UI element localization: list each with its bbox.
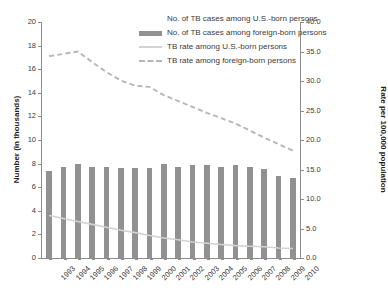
y-axis-left-tick-label: 12	[0, 112, 36, 120]
legend-marker-none	[137, 12, 163, 26]
x-axis-tick	[135, 259, 138, 260]
y-axis-left-tick-label: 18	[0, 42, 36, 50]
y-axis-left-tick	[38, 258, 41, 259]
legend-bar-swatch-icon	[139, 31, 162, 36]
x-axis-tick	[150, 259, 153, 260]
x-axis-tick	[64, 259, 67, 260]
x-axis-tick	[107, 259, 110, 260]
line-tb-rate-us-born	[49, 216, 293, 249]
y-axis-right-tick	[301, 199, 304, 200]
y-axis-left-tick	[38, 69, 41, 70]
x-axis-tick	[78, 259, 81, 260]
x-axis-tick-label: 2005	[231, 264, 249, 282]
x-axis-tick	[279, 259, 282, 260]
y-axis-right-tick-label: 20.0	[306, 136, 346, 144]
y-axis-right-tick	[301, 140, 304, 141]
y-axis-right-tick-label: 30.0	[306, 77, 346, 85]
y-axis-left-tick-label: 20	[0, 18, 36, 26]
y-axis-left-tick	[38, 93, 41, 94]
x-axis-tick	[121, 259, 124, 260]
y-axis-right-tick	[301, 81, 304, 82]
y-axis-right-tick-label: 0.0	[306, 254, 346, 262]
y-axis-left-tick-label: 4	[0, 207, 36, 215]
y-axis-right-tick	[301, 258, 304, 259]
x-axis-tick	[264, 259, 267, 260]
y-axis-left-tick-label: 16	[0, 65, 36, 73]
x-axis-tick	[178, 259, 181, 260]
x-axis-tick	[193, 259, 196, 260]
legend-item[interactable]: No. of TB cases among U.S.-born persons	[137, 12, 327, 26]
y-axis-left-tick	[38, 234, 41, 235]
y-axis-left-tick	[38, 211, 41, 212]
legend-dashed-line-icon	[139, 60, 162, 62]
legend-item[interactable]: TB rate among U.S.-born persons	[137, 40, 327, 54]
x-axis-tick	[293, 259, 296, 260]
x-axis-tick-label: 2002	[188, 264, 206, 282]
x-axis-tick	[207, 259, 210, 260]
y-axis-right-tick-label: 15.0	[306, 166, 346, 174]
x-axis-tick-label: 1996	[102, 264, 120, 282]
x-axis-tick-label: 2008	[274, 264, 292, 282]
y-axis-left-tick-label: 10	[0, 136, 36, 144]
x-axis-tick	[250, 259, 253, 260]
legend-item-label: TB rate among foreign-born persons	[167, 54, 296, 68]
x-axis-tick	[221, 259, 224, 260]
y-axis-left-tick-label: 6	[0, 183, 36, 191]
y-axis-left-tick	[38, 22, 41, 23]
legend-marker-solid-line	[137, 40, 163, 54]
chart-legend: No. of TB cases among U.S.-born personsN…	[137, 12, 327, 68]
y-axis-left-tick	[38, 164, 41, 165]
y-axis-left-tick	[38, 46, 41, 47]
y-axis-right-tick-label: 25.0	[306, 107, 346, 115]
y-axis-right-tick-label: 5.0	[306, 225, 346, 233]
y-axis-right-tick	[301, 229, 304, 230]
legend-item[interactable]: No. of TB cases among foreign-born perso…	[137, 26, 327, 40]
x-axis-tick-label: 2010	[303, 264, 321, 282]
x-axis-tick	[164, 259, 167, 260]
y-axis-left-tick-label: 2	[0, 230, 36, 238]
x-axis-tick	[92, 259, 95, 260]
x-axis-tick-label: 1999	[145, 264, 163, 282]
legend-item-label: No. of TB cases among foreign-born perso…	[167, 26, 327, 40]
legend-marker-swatch	[137, 26, 163, 40]
y-axis-right-tick	[301, 111, 304, 112]
legend-marker-dashed-line	[137, 54, 163, 68]
legend-item[interactable]: TB rate among foreign-born persons	[137, 54, 327, 68]
y-axis-right-tick	[301, 170, 304, 171]
y-axis-right-tick-label: 10.0	[306, 195, 346, 203]
y-axis-left-tick	[38, 116, 41, 117]
y-axis-left-tick-label: 14	[0, 89, 36, 97]
y-axis-left-tick	[38, 187, 41, 188]
legend-item-label: TB rate among U.S.-born persons	[167, 40, 287, 54]
legend-item-label: No. of TB cases among U.S.-born persons	[167, 12, 318, 26]
x-axis-tick-label: 1993	[59, 264, 77, 282]
y-axis-left-tick-label: 8	[0, 160, 36, 168]
x-axis-tick	[236, 259, 239, 260]
y-axis-left-tick	[38, 140, 41, 141]
legend-solid-line-icon	[139, 46, 162, 48]
y-axis-left-tick-label: 0	[0, 254, 36, 262]
y-axis-right-title: Rate per 100,000 population	[379, 75, 388, 205]
x-axis-tick	[49, 259, 52, 260]
